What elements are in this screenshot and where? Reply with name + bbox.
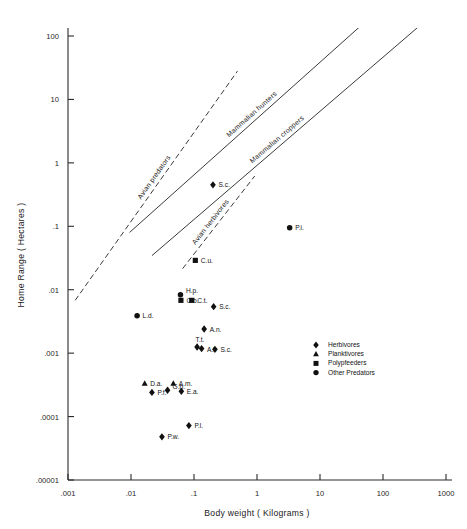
data-point: C.b. xyxy=(178,297,198,304)
data-point: P.w. xyxy=(159,433,179,440)
data-point: D.a. xyxy=(142,380,163,387)
data-point: L.d. xyxy=(134,312,153,319)
marker-diamond xyxy=(313,341,319,348)
x-tick-label: 100 xyxy=(377,489,390,498)
data-point-label: G.b. xyxy=(173,383,186,390)
x-tick-label: .01 xyxy=(126,489,137,498)
marker-diamond xyxy=(199,345,205,352)
data-point: S.c. xyxy=(210,181,230,188)
legend-item: Herbivores xyxy=(313,341,360,349)
marker-diamond xyxy=(211,303,217,310)
data-point: C.u. xyxy=(193,257,213,264)
marker-diamond xyxy=(194,343,200,350)
regression-line-3 xyxy=(183,176,255,269)
legend: HerbivoresPlanktivoresPolypfeedersOther … xyxy=(313,341,376,376)
marker-circle xyxy=(134,313,140,319)
y-tick-label: .01 xyxy=(48,286,59,295)
regression-line-1 xyxy=(130,0,446,232)
legend-item-label: Herbivores xyxy=(328,341,361,348)
x-tick-label: 10 xyxy=(316,489,324,498)
data-point: P.i. xyxy=(287,224,304,231)
regression-line-label-1: Mammalian hunters xyxy=(225,90,278,139)
x-tick-label: .001 xyxy=(61,489,76,498)
data-point: P.l. xyxy=(186,422,203,429)
data-point: S.c. xyxy=(212,346,232,353)
legend-item: Polypfeeders xyxy=(314,359,368,367)
marker-circle xyxy=(178,292,184,298)
marker-circle xyxy=(313,370,318,375)
axes-group xyxy=(68,28,452,480)
data-point-label: E.a. xyxy=(187,388,199,395)
data-point-label: P.i. xyxy=(295,224,304,231)
x-tick-label: 1000 xyxy=(438,489,455,498)
data-point-label: A.n. xyxy=(210,326,222,333)
y-tick-label: 10 xyxy=(51,95,59,104)
data-point-label: H.p. xyxy=(186,287,198,295)
marker-square xyxy=(193,258,198,263)
data-point-label: S.c. xyxy=(220,346,232,353)
data-point: A.n. xyxy=(201,325,221,332)
legend-item: Other Predators xyxy=(313,369,375,376)
y-tick-label: 1 xyxy=(55,159,59,168)
marker-diamond xyxy=(210,181,216,188)
marker-diamond xyxy=(149,389,155,396)
data-point-label: P.w. xyxy=(167,433,179,440)
marker-square xyxy=(314,361,319,366)
y-tick-label: .001 xyxy=(44,349,59,358)
data-point: P.f. xyxy=(149,389,167,397)
data-points-group: S.c.P.i.C.u.H.p.C.b.C.t.S.c.L.d.A.n.T.t.… xyxy=(134,181,304,440)
data-point: S.c. xyxy=(211,303,231,310)
legend-item-label: Planktivores xyxy=(328,350,365,357)
marker-triangle xyxy=(142,380,148,386)
marker-diamond xyxy=(159,433,165,440)
y-axis-ticks xyxy=(68,36,74,480)
regression-line-labels-group: Avian predatorsMammalian huntersMammalia… xyxy=(136,90,306,246)
marker-square xyxy=(178,298,183,303)
regression-line-label-2: Mammalian croppers xyxy=(248,114,306,165)
marker-diamond xyxy=(186,422,192,429)
marker-square xyxy=(189,298,194,303)
chart-canvas: Avian predatorsMammalian huntersMammalia… xyxy=(0,0,467,529)
y-axis-title: Home Range ( Hectares ) xyxy=(16,203,26,308)
legend-item: Planktivores xyxy=(313,350,365,357)
marker-triangle xyxy=(313,351,319,356)
data-point-label: P.l. xyxy=(194,422,203,429)
data-point-label: S.c. xyxy=(218,181,230,188)
legend-item-label: Other Predators xyxy=(328,369,376,376)
data-point-label: T.t. xyxy=(196,336,205,343)
data-point: E.a. xyxy=(179,388,199,395)
marker-diamond xyxy=(201,325,207,332)
x-axis-title: Body weight ( Kilograms ) xyxy=(204,508,309,518)
y-axis-tick-labels: .00001.0001.001.01.1110100 xyxy=(36,32,59,485)
regression-line-label-0: Avian predators xyxy=(136,154,173,201)
home-range-body-weight-chart: Avian predatorsMammalian huntersMammalia… xyxy=(0,0,467,529)
data-point-label: S.c. xyxy=(219,303,231,310)
data-point-label: D.a. xyxy=(150,380,162,387)
y-tick-label: .1 xyxy=(53,222,59,231)
x-tick-label: .1 xyxy=(191,489,197,498)
data-point-label: C.u. xyxy=(201,257,213,264)
x-axis-tick-labels: .001.01.11101001000 xyxy=(61,489,455,498)
y-tick-label: .0001 xyxy=(40,413,59,422)
marker-circle xyxy=(287,225,293,231)
x-axis-ticks xyxy=(68,474,446,480)
y-tick-label: 100 xyxy=(46,32,59,41)
y-tick-label: .00001 xyxy=(36,476,59,485)
x-tick-label: 1 xyxy=(255,489,259,498)
data-point-label: L.d. xyxy=(143,312,154,319)
regression-line-label-3: Avian herbivores xyxy=(191,198,231,246)
data-point-label: C.t. xyxy=(197,297,207,304)
legend-item-label: Polypfeeders xyxy=(328,359,367,367)
